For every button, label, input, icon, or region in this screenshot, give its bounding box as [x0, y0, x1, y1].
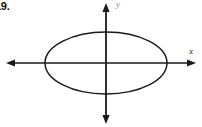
x-axis-label: x: [189, 47, 193, 56]
x-axis-left-arrow-icon: [6, 59, 15, 66]
y-axis-label: y: [116, 0, 120, 9]
y-axis-up-arrow-icon: [102, 3, 109, 12]
ellipse-figure: 19. x y: [0, 0, 202, 127]
y-axis-down-arrow-icon: [102, 115, 109, 124]
coordinate-plane-graphic: [0, 0, 202, 127]
x-axis-right-arrow-icon: [187, 59, 196, 66]
